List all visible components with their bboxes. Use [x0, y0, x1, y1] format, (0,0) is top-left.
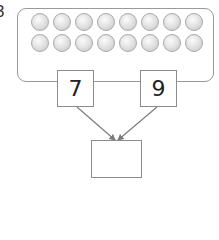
part-box-a: 7 [57, 70, 94, 107]
arrow-left [77, 107, 115, 140]
whole-answer-box[interactable] [91, 140, 142, 178]
part-box-b: 9 [140, 70, 177, 107]
arrow-right [118, 107, 157, 140]
